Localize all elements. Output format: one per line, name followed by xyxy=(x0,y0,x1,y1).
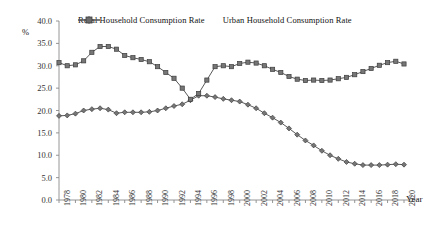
plot-area xyxy=(0,0,447,248)
y-axis-tick-label: 15.0 xyxy=(18,128,52,138)
x-axis-tick-label: 2004 xyxy=(276,190,285,206)
x-axis-tick-label: 1984 xyxy=(112,190,121,206)
x-axis-tick-label: 1986 xyxy=(128,190,137,206)
chart-container: Rural Household Consumption Rate Urban H… xyxy=(0,0,447,248)
x-axis-tick-label: 2018 xyxy=(391,190,400,206)
y-axis-tick-label: 30.0 xyxy=(18,61,52,71)
x-axis-tick-label: 2010 xyxy=(325,190,334,206)
x-axis-tick-label: 2014 xyxy=(358,190,367,206)
x-axis-tick-label: 1992 xyxy=(178,190,187,206)
x-axis-tick-label: 1988 xyxy=(145,190,154,206)
x-axis-tick-label: 2012 xyxy=(342,190,351,206)
x-axis-tick-label: 1994 xyxy=(194,190,203,206)
x-axis-tick-label: 2000 xyxy=(243,190,252,206)
x-axis-tick-label: 2020 xyxy=(408,190,417,206)
x-axis-tick-label: 1978 xyxy=(63,190,72,206)
x-axis-tick-label: 2006 xyxy=(293,190,302,206)
y-axis-tick-label: 20.0 xyxy=(18,106,52,116)
x-axis-tick-label: 2016 xyxy=(375,190,384,206)
y-axis-tick-label: 5.0 xyxy=(18,173,52,183)
x-axis-tick-label: 1998 xyxy=(227,190,236,206)
x-axis-tick-label: 2002 xyxy=(260,190,269,206)
x-axis-tick-label: 1990 xyxy=(161,190,170,206)
y-axis-tick-label: 40.0 xyxy=(18,16,52,26)
y-axis-tick-label: 35.0 xyxy=(18,38,52,48)
x-axis-tick-label: 2008 xyxy=(309,190,318,206)
x-axis-tick-label: 1982 xyxy=(95,190,104,206)
y-axis-tick-label: 25.0 xyxy=(18,83,52,93)
y-axis-tick-label: 0.0 xyxy=(18,195,52,205)
x-axis-tick-label: 1996 xyxy=(210,190,219,206)
y-axis-tick-label: 10.0 xyxy=(18,150,52,160)
x-axis-tick-label: 1980 xyxy=(79,190,88,206)
